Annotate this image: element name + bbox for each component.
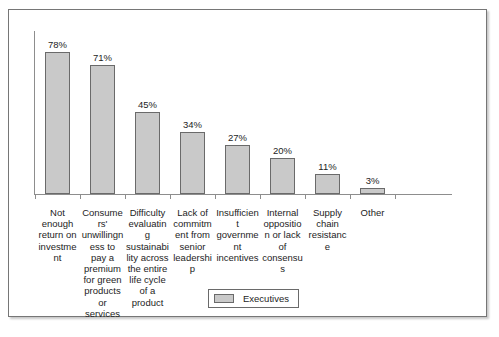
x-axis-label: Difficulty evaluating sustainability acr… bbox=[125, 204, 170, 319]
bar-slot: 71% bbox=[80, 31, 125, 194]
x-axis-label: Other bbox=[350, 204, 395, 319]
bar-value-label: 78% bbox=[48, 39, 67, 50]
bar-rect[interactable] bbox=[90, 65, 115, 194]
bar-rect[interactable] bbox=[270, 158, 295, 194]
bar-slot: 20% bbox=[260, 31, 305, 194]
bar-value-label: 3% bbox=[366, 175, 380, 186]
bar-value-label: 11% bbox=[318, 161, 336, 172]
chart-frame: 78% 71% 45% 34% 27% 20% bbox=[8, 9, 487, 317]
bar-value-label: 20% bbox=[273, 145, 292, 156]
bar-value-label: 34% bbox=[183, 119, 202, 130]
x-axis-tick bbox=[35, 195, 36, 199]
x-axis-tick bbox=[80, 195, 81, 199]
bar-rect[interactable] bbox=[135, 112, 160, 194]
x-axis-label: Supply chain resistance bbox=[305, 204, 350, 319]
plot-area: 78% 71% 45% 34% 27% 20% bbox=[34, 31, 452, 195]
legend-label-executives: Executives bbox=[243, 293, 289, 304]
bar-rect[interactable] bbox=[225, 145, 250, 194]
bar-value-label: 71% bbox=[93, 52, 112, 63]
bar-value-label: 45% bbox=[138, 99, 157, 110]
x-axis-tick bbox=[305, 195, 306, 199]
bar-rect[interactable] bbox=[45, 52, 70, 194]
x-axis-tick bbox=[125, 195, 126, 199]
x-axis-tick bbox=[170, 195, 171, 199]
bar-slot: 27% bbox=[215, 31, 260, 194]
x-axis-tick bbox=[395, 195, 396, 199]
bar-rect[interactable] bbox=[315, 174, 340, 194]
chart-legend: Executives bbox=[208, 289, 299, 308]
x-axis-tick bbox=[350, 195, 351, 199]
bar-slot: 34% bbox=[170, 31, 215, 194]
bar-value-label: 27% bbox=[228, 132, 247, 143]
x-axis-label: Not enough return on investment bbox=[35, 204, 80, 319]
x-axis-ticks bbox=[35, 195, 452, 199]
bar-rect[interactable] bbox=[180, 132, 205, 194]
x-axis-tick bbox=[215, 195, 216, 199]
x-axis-label: Consumers' unwillingness to pay a premiu… bbox=[80, 204, 125, 319]
bar-slot: 3% bbox=[350, 31, 395, 194]
x-axis-tick bbox=[260, 195, 261, 199]
bar-series-executives: 78% 71% 45% 34% 27% 20% bbox=[35, 31, 452, 194]
bar-slot: 78% bbox=[35, 31, 80, 194]
bar-slot: 45% bbox=[125, 31, 170, 194]
bar-slot: 11% bbox=[305, 31, 350, 194]
legend-swatch-executives bbox=[214, 294, 234, 303]
bar-rect[interactable] bbox=[360, 188, 385, 194]
